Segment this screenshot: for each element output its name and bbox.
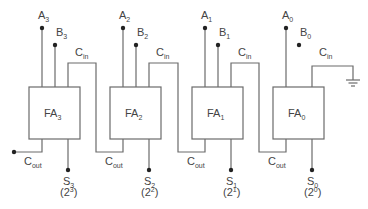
sum-output-terminal [147, 168, 151, 172]
b-input-label: B2 [137, 26, 148, 40]
a-input-terminal [121, 26, 125, 30]
a-input-terminal [203, 26, 207, 30]
cin-label: Cin [75, 46, 89, 60]
cin-label: Cin [156, 46, 170, 60]
b-input-label: B0 [300, 26, 311, 40]
b-input-terminal [297, 43, 301, 47]
cout-label: Cout [24, 155, 42, 169]
bit-weight-label: (23) [60, 186, 77, 198]
a-input-label: A3 [38, 9, 49, 23]
b-input-terminal [53, 43, 57, 47]
cout-label: Cout [268, 155, 286, 169]
ripple-carry-adder-diagram: FA3A3B3CinS3(23)CoutFA2A2B2CinS2(22)Cout… [0, 0, 368, 209]
b-input-terminal [134, 43, 138, 47]
bit-weight-label: (22) [141, 186, 158, 198]
bit-weight-label: (20) [304, 186, 321, 198]
cin-label: Cin [319, 46, 333, 60]
a-input-label: A0 [282, 9, 293, 23]
carry-out-wire [14, 139, 42, 152]
sum-output-terminal [310, 168, 314, 172]
a-input-terminal [40, 26, 44, 30]
a-input-label: A2 [119, 9, 130, 23]
b-input-label: B3 [56, 26, 67, 40]
cin-ground-wire [312, 66, 353, 87]
sum-output-terminal [229, 168, 233, 172]
sum-output-terminal [66, 168, 70, 172]
cout-label: Cout [187, 155, 205, 169]
cin-label: Cin [238, 46, 252, 60]
cout-label: Cout [105, 155, 123, 169]
b-input-terminal [216, 43, 220, 47]
b-input-label: B1 [219, 26, 230, 40]
bit-weight-label: (21) [223, 186, 240, 198]
carry-out-terminal [12, 150, 16, 154]
a-input-terminal [284, 26, 288, 30]
a-input-label: A1 [201, 9, 212, 23]
